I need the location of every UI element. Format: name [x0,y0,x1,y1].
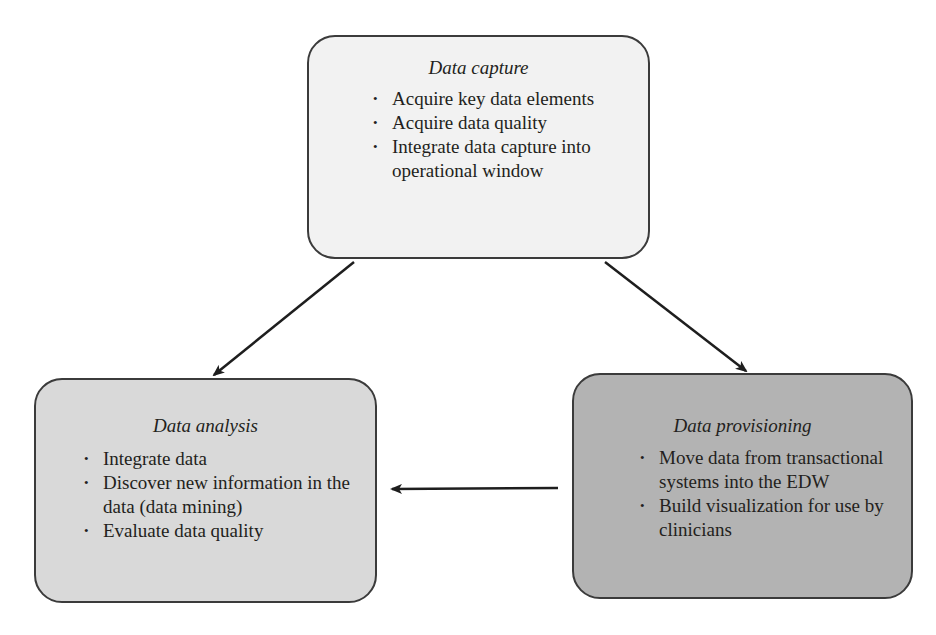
bullet-item: •Integrate data capture into operational… [371,135,631,183]
bullet-item: •Acquire key data elements [371,87,631,111]
bullet-text: Acquire key data elements [392,88,594,109]
data-provisioning-bullet-list: •Move data from transactional systems in… [638,446,888,542]
bullet-icon: • [84,447,89,471]
bullet-text: Acquire data quality [392,112,547,133]
arrow-capture-to-provisioning [605,262,746,371]
bullet-text: Build visualization for use by clinician… [659,495,884,540]
bullet-item: •Acquire data quality [371,111,631,135]
bullet-icon: • [84,471,89,495]
bullet-text: Integrate data [103,448,207,469]
bullet-icon: • [373,135,378,159]
bullet-text: Integrate data capture into operational … [392,136,591,181]
bullet-text: Evaluate data quality [103,520,263,541]
bullet-text: Discover new information in the data (da… [103,472,350,517]
bullet-item: •Move data from transactional systems in… [638,446,888,494]
data-capture-title: Data capture [309,57,648,79]
data-provisioning-title: Data provisioning [574,415,911,437]
bullet-text: Move data from transactional systems int… [659,447,883,492]
data-capture-bullet-list: •Acquire key data elements •Acquire data… [371,87,631,183]
bullet-icon: • [84,519,89,543]
bullet-item: •Integrate data [82,447,362,471]
data-analysis-title: Data analysis [36,415,375,437]
bullet-icon: • [640,494,645,518]
bullet-icon: • [373,87,378,111]
arrow-provisioning-to-analysis [392,488,558,489]
arrow-capture-to-analysis [214,262,354,375]
bullet-icon: • [373,111,378,135]
data-analysis-box: Data analysis •Integrate data •Discover … [34,378,377,603]
data-capture-box: Data capture •Acquire key data elements … [307,35,650,259]
data-provisioning-box: Data provisioning •Move data from transa… [572,373,913,599]
bullet-item: •Build visualization for use by clinicia… [638,494,888,542]
data-analysis-bullet-list: •Integrate data •Discover new informatio… [82,447,362,543]
bullet-item: •Discover new information in the data (d… [82,471,362,519]
bullet-item: •Evaluate data quality [82,519,362,543]
bullet-icon: • [640,446,645,470]
